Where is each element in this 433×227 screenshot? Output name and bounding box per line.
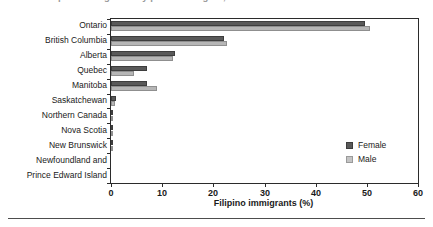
bar-female-4 (111, 81, 147, 86)
bar-female-6 (111, 110, 113, 115)
y-axis-tick-label: Newfoundland and (14, 155, 107, 165)
x-axis-tick-label: 40 (301, 188, 331, 198)
x-axis-tick (265, 183, 266, 187)
y-axis-tick (107, 123, 111, 124)
x-axis-tick-label: 30 (250, 188, 280, 198)
legend-swatch-male (346, 156, 353, 163)
y-axis-tick-label: Nova Scotia (14, 125, 107, 135)
bar-male-1 (111, 41, 227, 46)
y-axis-tick-label: Manitoba (14, 80, 107, 90)
x-axis-tick (213, 183, 214, 187)
bar-female-3 (111, 66, 147, 71)
bar-female-2 (111, 51, 175, 56)
bar-female-5 (111, 96, 116, 101)
bar-male-7 (111, 131, 113, 136)
legend-label: Male (358, 154, 376, 164)
y-axis-tick (107, 153, 111, 154)
legend-label: Female (358, 140, 386, 150)
legend-swatch-female (346, 142, 353, 149)
y-axis-tick-label: Alberta (14, 50, 107, 60)
x-axis-tick (367, 183, 368, 187)
chart-legend: FemaleMale (346, 139, 386, 167)
x-axis-tick (418, 183, 419, 187)
bar-female-0 (111, 21, 365, 26)
y-axis-tick-label: New Brunswick (14, 140, 107, 150)
legend-item-female: Female (346, 139, 386, 151)
bar-female-7 (111, 125, 113, 130)
y-axis-tick (107, 34, 111, 35)
bar-male-0 (111, 26, 370, 31)
bar-male-5 (111, 101, 115, 106)
x-axis-tick-label: 0 (96, 188, 126, 198)
footer-divider (8, 218, 425, 219)
x-axis-tick-label: 60 (403, 188, 433, 198)
y-axis-tick-label: Quebec (14, 65, 107, 75)
legend-item-male: Male (346, 153, 386, 165)
x-axis-tick (162, 183, 163, 187)
y-axis-tick-label: Northern Canada (14, 110, 107, 120)
y-axis-tick-label: Prince Edward Island (14, 170, 107, 180)
y-axis-tick-labels: OntarioBritish ColumbiaAlbertaQuebecMani… (14, 18, 107, 182)
x-axis-tick-label: 20 (198, 188, 228, 198)
y-axis-tick (107, 168, 111, 169)
x-axis-tick (316, 183, 317, 187)
y-axis-tick (107, 19, 111, 20)
bar-female-1 (111, 36, 224, 41)
bar-female-8 (111, 140, 113, 145)
x-axis-tick-label: 10 (147, 188, 177, 198)
y-axis-tick-label: Saskatchewan (14, 95, 107, 105)
y-axis-tick-label: Ontario (14, 20, 107, 30)
x-axis-tick-label: 50 (352, 188, 382, 198)
y-axis-tick (107, 138, 111, 139)
y-axis-tick-label: British Columbia (14, 35, 107, 45)
y-axis-tick (107, 108, 111, 109)
bar-chart: Province/region OntarioBritish ColumbiaA… (0, 0, 433, 227)
x-axis-tick (111, 183, 112, 187)
bar-male-4 (111, 86, 157, 91)
bar-male-3 (111, 71, 134, 76)
bar-male-2 (111, 56, 173, 61)
x-axis-title: Filipino immigrants (%) (110, 198, 417, 208)
bar-male-6 (111, 116, 113, 121)
bar-male-8 (111, 146, 113, 151)
